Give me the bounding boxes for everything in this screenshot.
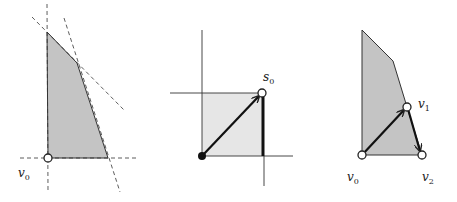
label-v2: v2 xyxy=(422,170,434,186)
label-v0: v0 xyxy=(18,166,30,182)
feasible-region xyxy=(47,32,108,158)
label-v1: v1 xyxy=(418,97,430,113)
vertex-v0 xyxy=(44,154,52,162)
panel-left: v0 xyxy=(18,4,138,192)
label-v0: v0 xyxy=(347,170,359,186)
panel-middle: s0 xyxy=(170,30,293,186)
polytope-region xyxy=(362,30,422,155)
origin-dot xyxy=(198,152,206,160)
panel-right: v1 v0 v2 xyxy=(347,30,434,186)
vertex-v1 xyxy=(403,103,411,111)
point-s0 xyxy=(258,89,266,97)
label-s0: s0 xyxy=(263,70,274,86)
vertex-v2 xyxy=(418,151,426,159)
diagram-canvas: v0 s0 v1 v0 v2 xyxy=(0,0,457,202)
vertex-v0 xyxy=(358,151,366,159)
